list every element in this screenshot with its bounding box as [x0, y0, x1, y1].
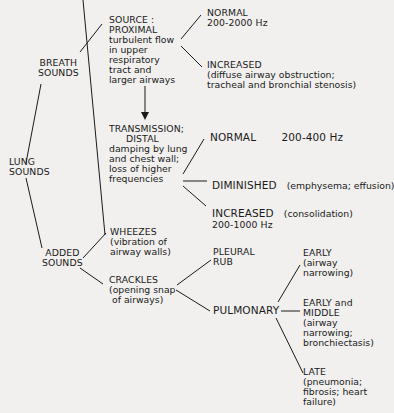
node-late: LATE (pneumonia; fibrosis; heart failure… [303, 367, 367, 407]
source-increased-detail: tracheal and bronchial stenosis) [207, 80, 356, 90]
arrow-head-icon [141, 112, 149, 120]
crackles-desc-line: of airways) [109, 295, 176, 305]
late-desc-line: failure) [303, 397, 367, 407]
source-normal-detail: 200-2000 Hz [207, 18, 268, 28]
edge-pulmonary-to-early [278, 265, 300, 302]
transmission-normal-title: NORMAL [210, 131, 256, 143]
edge-added-to-crackles [80, 268, 103, 284]
node-transmission-increased: INCREASED (consolidation) 200-1000 Hz [212, 203, 353, 230]
transmission-desc-line: frequencies [109, 174, 188, 184]
pleural-rub-line2: RUB [213, 257, 255, 267]
edge-lung-to-breath [26, 84, 41, 163]
node-lung-sounds: LUNG SOUNDS [9, 157, 50, 177]
edge-crackles-to-pulmonary [176, 290, 210, 311]
early-middle-desc-line: bronchiectasis) [303, 338, 374, 348]
edge-transmission-to-increased [183, 186, 206, 206]
pulmonary-title: PULMONARY [213, 304, 279, 316]
node-source-increased: INCREASED (diffuse airway obstruction; t… [207, 60, 356, 90]
node-transmission-diminished: DIMINISHED (emphysema; effusion) [212, 175, 394, 192]
transmission-normal-detail: 200-400 Hz [282, 131, 344, 143]
node-transmission-distal: TRANSMISSION; DISTAL damping by lung and… [109, 124, 188, 184]
edge-lung-to-added [26, 178, 42, 248]
transmission-diminished-detail: (emphysema; effusion) [287, 180, 394, 191]
node-transmission-normal: NORMAL 200-400 Hz [210, 132, 343, 143]
node-crackles: CRACKLES (opening snap of airways) [109, 275, 176, 305]
transmission-diminished-title: DIMINISHED [212, 179, 277, 191]
node-added-sounds: ADDED SOUNDS [42, 248, 83, 268]
node-source-normal: NORMAL 200-2000 Hz [207, 8, 268, 28]
transmission-increased-title: INCREASED [212, 207, 274, 219]
transmission-increased-detail: (consolidation) [284, 208, 353, 219]
node-pleural-rub: PLEURAL RUB [213, 247, 255, 267]
early-desc-line: narrowing) [303, 268, 353, 278]
breath-sounds-line2: SOUNDS [38, 68, 79, 78]
transmission-increased-range: 200-1000 Hz [212, 220, 353, 230]
node-early: EARLY (airway narrowing) [303, 248, 353, 278]
node-source-proximal: SOURCE : PROXIMAL turbulent flow in uppe… [109, 15, 175, 85]
edge-pulmonary-to-late [276, 318, 303, 373]
edge-breath-to-source [80, 24, 102, 52]
source-desc-line: larger airways [109, 75, 175, 85]
edge-source-to-normal [181, 15, 201, 39]
edge-added-to-wheezes [83, 0, 105, 235]
node-breath-sounds: BREATH SOUNDS [38, 58, 79, 78]
added-sounds-line2: SOUNDS [42, 258, 83, 268]
edge-source-to-increased [181, 46, 202, 67]
node-early-middle: EARLY and MIDDLE (airway narrowing; bron… [303, 298, 374, 348]
lung-sounds-line2: SOUNDS [9, 167, 50, 177]
node-pulmonary: PULMONARY [213, 305, 279, 316]
node-wheezes: WHEEZES (vibration of airway walls) [110, 227, 171, 257]
wheezes-desc-line: airway walls) [110, 247, 171, 257]
edge-crackles-to-pleural [177, 260, 211, 285]
